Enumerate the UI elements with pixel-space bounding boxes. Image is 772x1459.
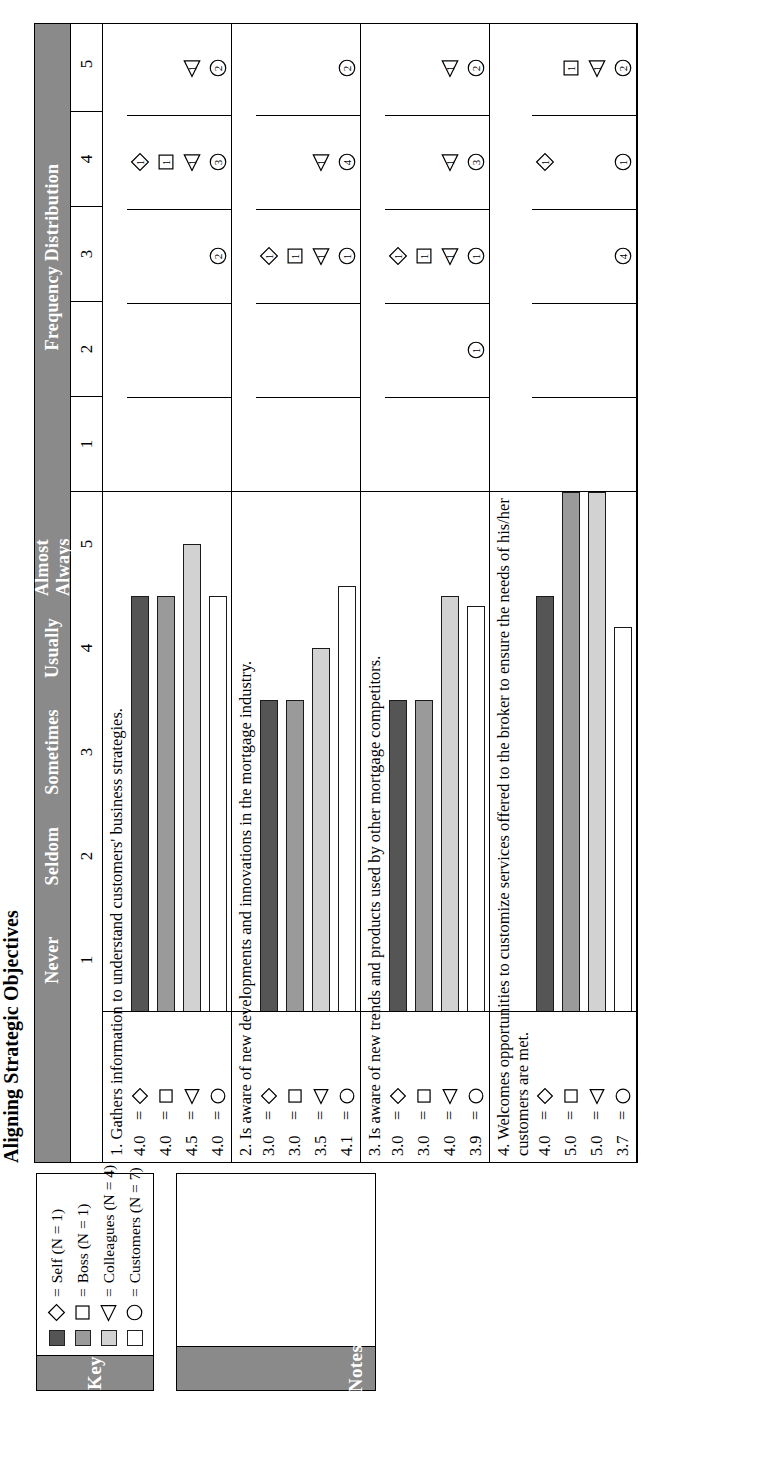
frequency-cell bbox=[437, 398, 463, 492]
page-title: Aligning Strategic Objectives bbox=[0, 910, 23, 1163]
frequency-marker-count: 4 bbox=[337, 153, 357, 173]
key-equals-sign: = bbox=[48, 1288, 66, 1297]
frequency-marker-circle: 2 bbox=[208, 59, 228, 79]
frequency-marker-count: 2 bbox=[208, 247, 228, 267]
rater-row-label: 3.0= bbox=[385, 1012, 411, 1162]
frequency-cell bbox=[385, 116, 411, 210]
frequency-cell bbox=[205, 398, 231, 492]
rater-bar bbox=[157, 596, 175, 1012]
notes-writing-area[interactable] bbox=[177, 1174, 375, 1346]
rater-bar bbox=[614, 627, 632, 1012]
rater-row-label: 4.1= bbox=[334, 1012, 360, 1162]
notes-panel[interactable]: Notes bbox=[176, 1173, 376, 1391]
rater-equals-sign: = bbox=[285, 1111, 305, 1120]
triangle-icon bbox=[183, 1086, 202, 1105]
frequency-distribution-row: 11 bbox=[308, 22, 334, 492]
rater-row-label: 3.7= bbox=[610, 1012, 636, 1162]
frequency-cell bbox=[584, 398, 610, 492]
scale-number-1: 1 bbox=[71, 908, 102, 1012]
chart-rater-row: 3.0=1 bbox=[282, 24, 308, 1162]
frequency-cell: 2 bbox=[205, 210, 231, 304]
diamond-icon bbox=[47, 1303, 66, 1322]
rater-equals-sign: = bbox=[259, 1111, 279, 1120]
chart-rater-row: 4.1=142 bbox=[334, 24, 360, 1162]
frequency-marker-count: 1 bbox=[156, 153, 176, 173]
diamond-icon bbox=[260, 1086, 279, 1105]
chart-rater-row: 4.0=1 bbox=[532, 24, 558, 1162]
frequency-cell bbox=[532, 304, 558, 398]
rater-row-label: 3.0= bbox=[282, 1012, 308, 1162]
rater-equals-sign: = bbox=[337, 1111, 357, 1120]
frequency-cell: 1 bbox=[308, 210, 334, 304]
frequency-cell bbox=[308, 304, 334, 398]
rater-bar-track bbox=[558, 492, 584, 1012]
frequency-cell: 1 bbox=[463, 304, 489, 398]
key-entry: =Boss (N = 1) bbox=[70, 1165, 95, 1346]
diamond-icon bbox=[389, 1086, 408, 1105]
rater-equals-sign: = bbox=[208, 1111, 228, 1120]
rater-row-label: 4.0= bbox=[153, 1012, 179, 1162]
rater-score-value: 3.0 bbox=[259, 1122, 279, 1156]
frequency-cell bbox=[411, 398, 437, 492]
circle-icon bbox=[209, 1086, 228, 1105]
frequency-distribution-row: 142 bbox=[334, 22, 360, 492]
frequency-cell: 1 bbox=[127, 116, 153, 210]
frequency-marker-circle: 1 bbox=[613, 153, 633, 173]
frequency-distribution-row: 1 bbox=[256, 22, 282, 492]
frequency-marker-diamond: 1 bbox=[130, 153, 150, 173]
frequency-cell: 1 bbox=[558, 22, 584, 116]
frequency-cell bbox=[334, 398, 360, 492]
rater-bar-track bbox=[411, 492, 437, 1012]
chart-item-rows: 4.0=14.0=14.5=114.0=232 bbox=[127, 24, 231, 1162]
chart-gridline bbox=[103, 491, 637, 492]
frequency-cell bbox=[205, 304, 231, 398]
square-icon bbox=[415, 1086, 434, 1105]
frequency-marker-diamond: 1 bbox=[388, 247, 408, 267]
rater-bar-track bbox=[256, 492, 282, 1012]
rater-bar-track bbox=[205, 492, 231, 1012]
scale-number-3: 3 bbox=[71, 700, 102, 804]
rater-score-value: 5.0 bbox=[561, 1122, 581, 1156]
chart-item-group: 2. Is aware of new developments and inno… bbox=[232, 24, 361, 1162]
frequency-cell bbox=[256, 398, 282, 492]
rater-score-value: 3.7 bbox=[613, 1122, 633, 1156]
chart-rater-row: 4.0=232 bbox=[205, 24, 231, 1162]
key-panel-header-label: Key bbox=[84, 1356, 106, 1390]
frequency-marker-count: 1 bbox=[613, 153, 633, 173]
frequency-distribution-row: 1 bbox=[282, 22, 308, 492]
frequency-cell bbox=[610, 398, 636, 492]
chart-rater-row: 4.0=111 bbox=[437, 24, 463, 1162]
chart-item-group: 4. Welcomes opportunities to customize s… bbox=[490, 24, 637, 1162]
frequency-distribution-header: Frequency Distribution bbox=[35, 22, 70, 492]
rater-bar-track bbox=[308, 492, 334, 1012]
rater-bar bbox=[467, 606, 485, 1012]
frequency-marker-count: 1 bbox=[587, 59, 607, 79]
frequency-marker-count: 2 bbox=[466, 59, 486, 79]
frequency-marker-circle: 3 bbox=[208, 153, 228, 173]
rater-bar-track bbox=[610, 492, 636, 1012]
frequency-cell bbox=[308, 398, 334, 492]
frequency-cell: 1 bbox=[282, 210, 308, 304]
frequency-marker-count: 1 bbox=[440, 59, 460, 79]
rater-bar-track bbox=[282, 492, 308, 1012]
chart-body: 1. Gathers information to understand cus… bbox=[103, 24, 637, 1162]
key-entry: =Colleagues (N = 4) bbox=[96, 1165, 121, 1346]
frequency-column-header-2: 2 bbox=[71, 302, 102, 397]
chart-item-group: 3. Is aware of new trends and products u… bbox=[361, 24, 490, 1162]
frequency-cell bbox=[532, 210, 558, 304]
frequency-marker-count: 1 bbox=[130, 153, 150, 173]
frequency-cell bbox=[127, 398, 153, 492]
rater-equals-sign: = bbox=[587, 1111, 607, 1120]
frequency-cell: 4 bbox=[334, 116, 360, 210]
frequency-cell: 1 bbox=[463, 210, 489, 304]
frequency-marker-square: 1 bbox=[156, 153, 176, 173]
triangle-icon bbox=[441, 1086, 460, 1105]
frequency-cell bbox=[411, 304, 437, 398]
rater-score-value: 3.0 bbox=[285, 1122, 305, 1156]
rater-equals-sign: = bbox=[388, 1111, 408, 1120]
rater-equals-sign: = bbox=[613, 1111, 633, 1120]
chart-item-rows: 4.0=15.0=15.0=13.7=412 bbox=[532, 24, 636, 1162]
frequency-cell bbox=[256, 22, 282, 116]
rater-bar-track bbox=[334, 492, 360, 1012]
rater-score-value: 4.0 bbox=[156, 1122, 176, 1156]
